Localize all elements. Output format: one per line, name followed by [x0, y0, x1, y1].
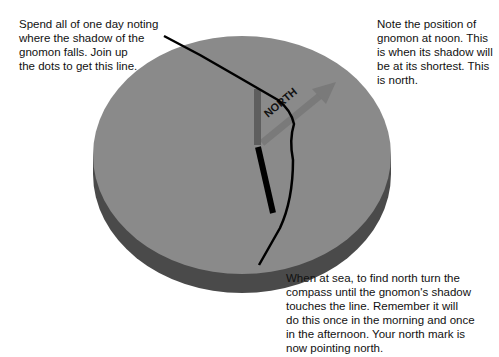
shadow-line-note: Spend all of one day noting where the sh…	[19, 17, 189, 73]
gnomon-icon	[254, 89, 261, 145]
noon-position-note: Note the position of gnomon at noon. Thi…	[377, 17, 499, 87]
at-sea-note: When at sea, to find north turn the comp…	[286, 271, 499, 355]
